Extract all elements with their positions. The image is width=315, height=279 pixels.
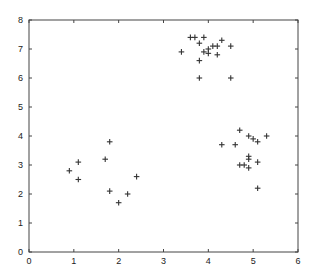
plus-marker — [219, 142, 225, 148]
plus-marker — [107, 139, 113, 145]
x-tick-label: 0 — [26, 256, 31, 266]
plus-marker — [255, 139, 261, 145]
plus-marker — [125, 191, 131, 197]
x-tick-label: 1 — [71, 256, 76, 266]
x-tick-label: 5 — [251, 256, 256, 266]
plus-marker — [264, 133, 270, 139]
x-tick-label: 4 — [206, 256, 211, 266]
plus-marker — [246, 133, 252, 139]
plus-marker — [255, 159, 261, 165]
data-points — [67, 35, 270, 206]
plus-marker — [116, 200, 122, 206]
y-tick-label: 7 — [18, 44, 23, 54]
x-tick-label: 2 — [116, 256, 121, 266]
x-axis: 0123456 — [26, 20, 300, 266]
plus-marker — [102, 156, 108, 162]
plus-marker — [192, 35, 198, 41]
plus-marker — [219, 38, 225, 44]
y-tick-label: 2 — [18, 189, 23, 199]
scatter-chart: 0123456 012345678 — [0, 0, 315, 279]
plus-marker — [107, 188, 113, 194]
plus-marker — [201, 35, 207, 41]
plus-marker — [134, 174, 140, 180]
plus-marker — [237, 127, 243, 133]
plus-marker — [255, 185, 261, 191]
y-tick-label: 8 — [18, 15, 23, 25]
y-tick-label: 0 — [18, 247, 23, 257]
plus-marker — [228, 43, 234, 49]
plus-marker — [76, 159, 82, 165]
plus-marker — [76, 177, 82, 183]
plus-marker — [197, 75, 203, 81]
plus-marker — [232, 142, 238, 148]
plot-frame — [29, 20, 298, 252]
plus-marker — [215, 43, 221, 49]
plus-marker — [197, 40, 203, 46]
plus-marker — [246, 165, 252, 171]
y-tick-label: 3 — [18, 160, 23, 170]
plus-marker — [250, 136, 256, 142]
plus-marker — [67, 168, 73, 174]
y-tick-label: 5 — [18, 102, 23, 112]
y-tick-label: 6 — [18, 73, 23, 83]
plus-marker — [241, 162, 247, 168]
x-tick-label: 6 — [295, 256, 300, 266]
y-tick-label: 4 — [18, 131, 23, 141]
y-tick-label: 1 — [18, 218, 23, 228]
plus-marker — [215, 52, 221, 58]
plus-marker — [179, 49, 185, 55]
plus-marker — [246, 156, 252, 162]
y-axis: 012345678 — [18, 15, 298, 257]
plus-marker — [197, 58, 203, 64]
plus-marker — [228, 75, 234, 81]
x-tick-label: 3 — [161, 256, 166, 266]
